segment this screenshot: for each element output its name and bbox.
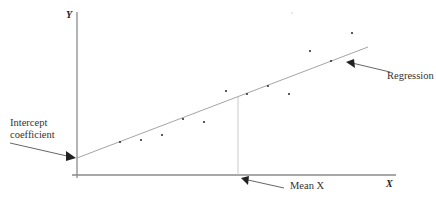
regression-diagram [0,0,436,200]
data-point [225,90,227,92]
regression-label: Regression [387,70,434,82]
data-point [309,50,311,52]
data-point [203,121,205,123]
data-point [246,93,248,95]
x-axis-label: X [386,178,393,190]
data-point [351,32,353,34]
data-point [140,139,142,141]
data-point [161,134,163,136]
intercept-label-line1: Intercept [10,117,47,129]
mean-x-label: Mean X [290,180,324,192]
data-point [119,141,121,143]
data-point [182,118,184,120]
data-point [288,93,290,95]
regression-arrow-icon [346,59,390,72]
data-point [267,85,269,87]
mean-x-arrow-icon [241,176,284,188]
y-axis-label: Y [66,9,72,21]
intercept-arrow-icon [10,143,76,161]
intercept-label-line2: coefficient [10,129,55,141]
stray-point [291,12,293,14]
data-point [330,60,332,62]
data-points [119,12,353,143]
